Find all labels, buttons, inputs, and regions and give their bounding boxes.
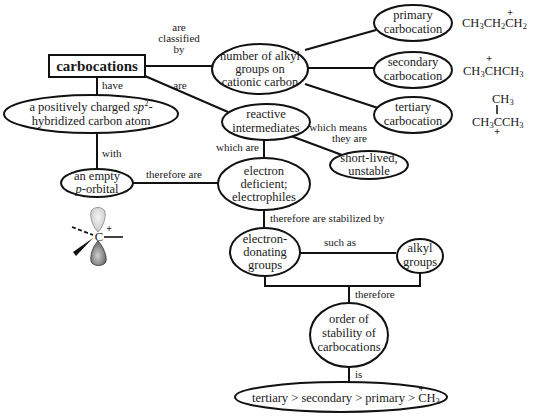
link-label-are: are — [173, 79, 187, 91]
ranking-charge: + — [418, 383, 424, 394]
alkyl-number-line1: number of alkyl — [220, 49, 300, 63]
short-lived-line2: unstable — [348, 164, 390, 178]
orbital-top-lobe — [91, 208, 105, 233]
tertiary-formula-top: CH3 — [492, 92, 514, 107]
secondary-formula-text: CH3CHCH3 — [463, 64, 524, 79]
sf2: CHCH — [485, 64, 520, 78]
pf4: CH — [505, 16, 522, 30]
sp2-suffix: - — [148, 100, 152, 114]
formula-tertiary: CH3 CH3CCH3 + — [472, 92, 524, 137]
link-label-therefore: therefore — [355, 288, 395, 300]
edge-to-primary — [305, 30, 376, 50]
link-label-is: is — [355, 368, 362, 380]
concept-map: carbocations a positively charged sp2- h… — [0, 0, 533, 417]
order-line2: stability of — [322, 326, 377, 340]
node-tertiary-carbocation[interactable]: tertiary carbocation — [374, 97, 452, 133]
alkyl-number-line2: groups on — [235, 62, 285, 76]
link-label-classified-3: by — [174, 43, 186, 55]
ranking-sub: 3 — [436, 396, 440, 406]
node-stability-ranking[interactable]: tertiary > secondary > primary > CH3 + — [235, 382, 447, 412]
empty-p-line2: p-orbital — [74, 182, 119, 196]
link-label-stabilized-by: therefore are stabilized by — [270, 212, 385, 224]
link-label-with: with — [102, 147, 122, 159]
alkyl-groups-line2: groups — [403, 255, 437, 269]
dashed-bond — [72, 227, 93, 235]
node-order-of-stability[interactable]: order of stability of carbocations — [310, 303, 388, 367]
short-lived-line1: short-lived, — [340, 151, 397, 165]
node-electron-donating-groups[interactable]: electron- donating groups — [230, 228, 300, 276]
empty-p-rest: -orbital — [82, 182, 119, 196]
sp2-italic: sp — [133, 100, 144, 114]
orbital-bottom-lobe — [91, 241, 106, 266]
secondary-charge: + — [486, 53, 492, 64]
order-line3: carbocations — [317, 340, 380, 354]
node-sp2-atom[interactable]: a positively charged sp2- hybridized car… — [4, 95, 178, 133]
donating-line1: electron- — [243, 232, 287, 246]
primary-line2: carbocation — [384, 22, 443, 36]
donating-line3: groups — [248, 258, 282, 272]
node-reactive-intermediates[interactable]: reactive intermediates — [222, 104, 310, 140]
deficient-line3: electrophiles — [232, 190, 296, 204]
sp2-text: a positively charged — [29, 100, 133, 114]
link-label-such-as: such as — [324, 236, 356, 248]
tertiary-line1: tertiary — [395, 100, 432, 114]
node-electron-deficient[interactable]: electron deficient; electrophiles — [218, 158, 310, 210]
pf2: CH — [484, 16, 501, 30]
node-secondary-carbocation[interactable]: secondary carbocation — [374, 52, 452, 88]
node-alkyl-groups[interactable]: alkyl groups — [397, 239, 443, 273]
secondary-line1: secondary — [388, 55, 439, 69]
pf5: 2 — [523, 21, 527, 31]
reactive-line2: intermediates — [232, 121, 299, 135]
node-primary-carbocation[interactable]: primary carbocation — [374, 5, 452, 41]
primary-line1: primary — [393, 8, 433, 22]
svg-text:a positively charged sp2-: a positively charged sp2- — [29, 98, 152, 114]
primary-charge: + — [507, 7, 513, 18]
wedge-bond — [73, 238, 93, 256]
link-label-therefore-are: therefore are — [146, 168, 202, 180]
sp2-line2: hybridized carbon atom — [32, 114, 151, 128]
link-label-have: have — [102, 79, 123, 91]
formula-secondary: CH3CHCH3 + — [463, 53, 524, 79]
node-empty-p-orbital[interactable]: an empty p-orbital — [61, 169, 133, 197]
alkyl-number-line3: cationic carbon — [222, 75, 299, 89]
primary-formula-text: CH3CH2CH2 — [462, 16, 527, 31]
orbital-carbon-atom: C — [95, 230, 103, 244]
ranking-text: tertiary > secondary > primary > CH3 — [252, 391, 440, 406]
node-carbocations-label: carbocations — [56, 58, 138, 74]
pf0: CH — [462, 16, 479, 30]
tf0: CH — [472, 115, 489, 129]
deficient-line1: electron — [244, 164, 285, 178]
order-line1: order of — [329, 312, 370, 326]
orbital-charge: + — [106, 223, 112, 234]
tf-top: CH — [492, 92, 509, 106]
tertiary-line2: carbocation — [384, 114, 443, 128]
edge-therefore-bracket — [265, 272, 420, 286]
sf0: CH — [463, 64, 480, 78]
tf-top-sub: 3 — [509, 97, 513, 107]
formula-primary: CH3CH2CH2 + — [462, 7, 527, 31]
ranking-main: tertiary > secondary > primary > CH — [252, 391, 436, 405]
donating-line2: donating — [243, 245, 287, 259]
tf3: 3 — [519, 120, 523, 130]
node-short-lived[interactable]: short-lived, unstable — [330, 151, 408, 179]
reactive-line1: reactive — [246, 107, 286, 121]
link-label-which-are: which are — [216, 141, 259, 153]
deficient-line2: deficient; — [240, 177, 287, 191]
sf3: 3 — [519, 69, 523, 79]
alkyl-groups-line1: alkyl — [408, 241, 434, 255]
secondary-line2: carbocation — [384, 69, 443, 83]
tertiary-charge: + — [494, 126, 500, 137]
node-alkyl-number[interactable]: number of alkyl groups on cationic carbo… — [212, 44, 308, 94]
edge-to-tertiary — [305, 84, 378, 108]
empty-p-italic: p — [74, 182, 81, 196]
empty-p-line1: an empty — [74, 169, 121, 183]
node-carbocations[interactable]: carbocations — [49, 55, 145, 77]
p-orbital-illustration: C + — [72, 208, 123, 266]
link-label-which-means-2: they are — [332, 132, 367, 144]
